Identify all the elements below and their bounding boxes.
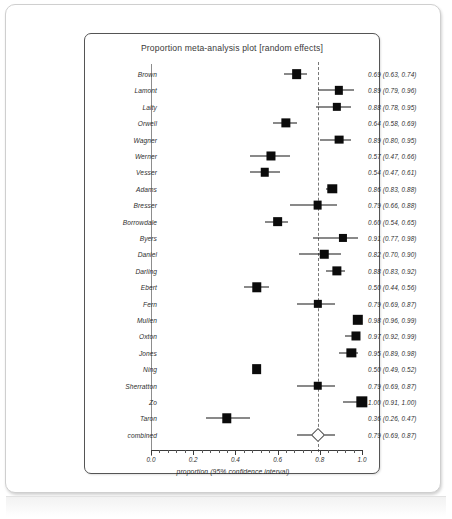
study-marker xyxy=(261,168,269,176)
study-marker xyxy=(347,348,356,357)
x-axis-minor-tick xyxy=(286,450,287,453)
estimate-ci-text: 0.64 (0.58, 0.69) xyxy=(368,120,417,127)
study-marker xyxy=(353,315,363,325)
x-axis-minor-tick xyxy=(185,450,186,453)
estimate-ci-text: 0.79 (0.69, 0.87) xyxy=(368,300,417,307)
study-label: Bresser xyxy=(134,202,157,209)
x-axis: 0.00.20.40.60.81.0proportion (95% confid… xyxy=(85,34,381,94)
x-axis-minor-tick xyxy=(244,450,245,453)
x-axis-minor-tick xyxy=(269,450,270,453)
study-label: Werner xyxy=(135,153,157,160)
x-axis-tick-label: 0.6 xyxy=(273,456,282,463)
estimate-ci-text: 0.88 (0.78, 0.95) xyxy=(368,103,417,110)
page-bottom-edge xyxy=(6,496,446,517)
x-axis-tick-label: 1.0 xyxy=(358,456,367,463)
forest-plot-panel: Proportion meta-analysis plot [random ef… xyxy=(84,33,380,474)
estimate-ci-text: 0.79 (0.69, 0.87) xyxy=(368,382,417,389)
x-axis-minor-tick xyxy=(328,450,329,453)
x-axis-minor-tick xyxy=(303,450,304,453)
estimate-ci-text: 0.95 (0.89, 0.98) xyxy=(368,349,417,356)
study-marker xyxy=(313,201,322,210)
estimate-ci-text: 0.89 (0.80, 0.95) xyxy=(368,136,417,143)
study-marker xyxy=(356,396,367,407)
x-axis-minor-tick xyxy=(354,450,355,453)
x-axis-minor-tick xyxy=(227,450,228,453)
study-label: Ebert xyxy=(141,284,157,291)
study-label: Wagner xyxy=(133,136,157,143)
estimate-ci-text: 0.97 (0.92, 0.99) xyxy=(368,333,417,340)
x-axis-minor-tick xyxy=(168,450,169,453)
study-marker xyxy=(332,266,341,275)
estimate-ci-text: 0.82 (0.70, 0.90) xyxy=(368,251,417,258)
estimate-ci-text: 0.91 (0.77, 0.98) xyxy=(368,235,417,242)
estimate-ci-text: 0.50 (0.49, 0.52) xyxy=(368,366,417,373)
study-label: Darling xyxy=(135,267,157,274)
x-axis-minor-tick xyxy=(252,450,253,453)
study-marker xyxy=(267,151,276,160)
study-label: Laity xyxy=(143,103,157,110)
study-marker xyxy=(273,217,283,227)
confidence-interval-line xyxy=(313,238,357,239)
x-axis-title: proportion (95% confidence interval) xyxy=(85,468,381,475)
study-marker xyxy=(351,332,360,341)
x-axis-tick xyxy=(320,450,321,455)
x-axis-tick-label: 0.2 xyxy=(189,456,198,463)
x-axis-tick xyxy=(278,450,279,455)
study-label: Mullen xyxy=(137,317,157,324)
estimate-ci-text: 0.54 (0.47, 0.61) xyxy=(368,169,417,176)
study-label: Jones xyxy=(139,349,157,356)
study-label: Borrowdale xyxy=(123,218,157,225)
study-label: Daniel xyxy=(138,251,157,258)
study-label: Vesser xyxy=(136,169,157,176)
study-label: Sherratton xyxy=(125,382,157,389)
study-marker xyxy=(339,234,347,242)
study-label: Taron xyxy=(140,415,157,422)
estimate-ci-text: 0.98 (0.96, 0.99) xyxy=(368,317,417,324)
estimate-ci-text: 0.79 (0.69, 0.87) xyxy=(368,431,417,438)
estimate-ci-text: 1.00 (0.91, 1.00) xyxy=(368,399,417,406)
x-axis-minor-tick xyxy=(159,450,160,453)
study-marker xyxy=(252,364,262,374)
reference-line xyxy=(318,62,319,452)
study-marker xyxy=(320,250,328,258)
x-axis-minor-tick xyxy=(311,450,312,453)
forest-rows-layer: Brown0.69 (0.63, 0.74)Lamont0.89 (0.79, … xyxy=(85,34,381,475)
study-marker xyxy=(333,103,341,111)
x-axis-tick xyxy=(151,450,152,455)
study-marker xyxy=(281,119,290,128)
study-label: Zo xyxy=(149,399,157,406)
study-label: Ning xyxy=(143,366,157,373)
x-axis-tick-label: 0.0 xyxy=(147,456,156,463)
study-label: Orwell xyxy=(138,120,157,127)
study-marker xyxy=(252,282,261,291)
study-marker xyxy=(328,184,337,193)
x-axis-minor-tick xyxy=(219,450,220,453)
combined-label: combined xyxy=(128,431,157,438)
estimate-ci-text: 0.60 (0.54, 0.65) xyxy=(368,218,417,225)
x-axis-line xyxy=(151,450,362,451)
x-axis-minor-tick xyxy=(202,450,203,453)
estimate-ci-text: 0.79 (0.66, 0.88) xyxy=(368,202,417,209)
x-axis-tick-label: 0.4 xyxy=(231,456,240,463)
x-axis-minor-tick xyxy=(345,450,346,453)
combined-diamond-marker xyxy=(311,428,325,442)
x-axis-minor-tick xyxy=(337,450,338,453)
estimate-ci-text: 0.50 (0.44, 0.56) xyxy=(368,284,417,291)
study-label: Byers xyxy=(140,235,157,242)
study-label: Adams xyxy=(136,185,157,192)
estimate-ci-text: 0.57 (0.47, 0.66) xyxy=(368,153,417,160)
x-axis-tick xyxy=(235,450,236,455)
x-axis-minor-tick xyxy=(176,450,177,453)
scanned-page-card: Proportion meta-analysis plot [random ef… xyxy=(5,4,441,493)
x-axis-tick xyxy=(193,450,194,455)
study-marker xyxy=(334,135,343,144)
x-axis-minor-tick xyxy=(261,450,262,453)
estimate-ci-text: 0.88 (0.83, 0.92) xyxy=(368,267,417,274)
x-axis-minor-tick xyxy=(294,450,295,453)
study-marker xyxy=(313,381,321,389)
study-marker xyxy=(222,414,231,423)
x-axis-tick xyxy=(362,450,363,455)
estimate-ci-text: 0.36 (0.26, 0.47) xyxy=(368,415,417,422)
study-marker xyxy=(314,299,322,307)
x-axis-tick-label: 0.8 xyxy=(315,456,324,463)
